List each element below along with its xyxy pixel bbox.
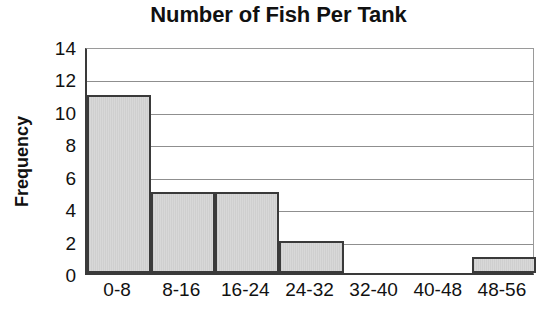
- x-axis-tick-label: 48-56: [478, 279, 527, 301]
- bar: [151, 192, 215, 273]
- y-axis-tick-label: 14: [55, 39, 76, 58]
- bar: [87, 95, 151, 273]
- chart-figure: Number of Fish Per Tank Frequency 024681…: [0, 0, 557, 314]
- bar: [215, 192, 279, 273]
- x-axis-tick-label: 32-40: [349, 279, 398, 301]
- x-axis-tick-labels: 0-88-1616-2424-3232-4040-4848-56: [85, 279, 534, 309]
- bar: [472, 257, 536, 273]
- x-axis-tick-label: 16-24: [221, 279, 270, 301]
- y-axis-tick-label: 4: [65, 201, 76, 220]
- y-axis-tick-label: 2: [65, 233, 76, 252]
- y-axis-tick-label: 10: [55, 103, 76, 122]
- x-axis-tick-label: 0-8: [103, 279, 130, 301]
- bar: [279, 241, 343, 273]
- x-axis-tick-label: 24-32: [285, 279, 334, 301]
- x-axis-tick-label: 8-16: [162, 279, 200, 301]
- plot-area: [85, 48, 534, 275]
- y-axis-tick-label: 8: [65, 136, 76, 155]
- y-axis-tick-label: 0: [65, 266, 76, 285]
- y-axis-label: Frequency: [13, 116, 34, 207]
- y-axis-tick-label: 12: [55, 71, 76, 90]
- x-axis-tick-label: 40-48: [413, 279, 462, 301]
- bar-series: [87, 49, 533, 273]
- y-axis-tick-labels: 02468101214: [40, 48, 80, 275]
- y-axis-label-container: Frequency: [8, 48, 38, 275]
- chart-title: Number of Fish Per Tank: [0, 2, 557, 28]
- y-axis-tick-label: 6: [65, 168, 76, 187]
